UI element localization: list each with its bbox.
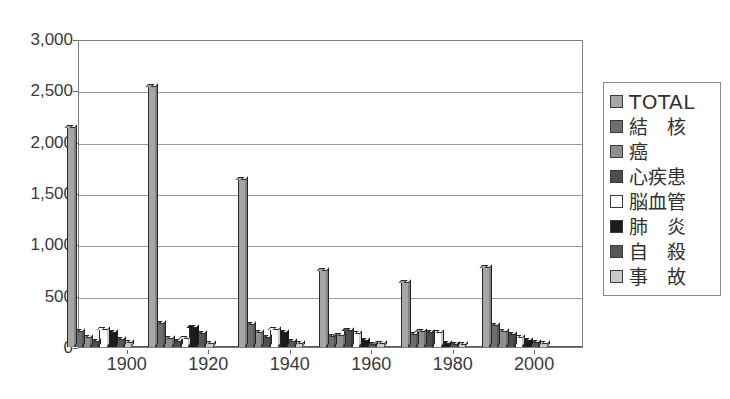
chart-figure: 3,0002,5002,0001,5001,0005000 1900192019… [0,0,730,399]
bar [319,270,327,347]
legend-swatch-icon [610,245,623,258]
bar-side-face [286,330,289,347]
legend-item-label: 結 核 [629,116,686,138]
bar-side-face [343,332,346,346]
bar-side-face [326,268,329,347]
x-axis-tick-label: 1920 [173,354,243,374]
legend-item[interactable]: 結 核 [610,114,716,139]
bar-side-face [155,84,158,347]
legend-item-label: TOTAL [629,91,695,113]
y-axis-tick-label: 0 [3,339,73,356]
y-axis-tick-label: 1,500 [3,185,73,202]
top-caption-cropped [60,0,620,7]
y-axis: 3,0002,5002,0001,5001,0005000 [0,40,73,348]
bar [368,344,376,347]
bar-side-face [408,280,411,347]
bar-side-face [196,324,199,346]
bar-top-face [341,328,350,331]
chart-legend: TOTAL結 核癌心疾患脳血管肺 炎自 殺事 故 [603,82,721,296]
bar-side-face [115,330,118,347]
bar [401,282,409,347]
bar-top-face [398,280,407,283]
legend-swatch-icon [610,145,623,158]
x-axis-tick-label: 1900 [92,354,162,374]
bar-side-face [489,264,492,346]
legend-swatch-icon [610,270,623,283]
bar-side-face [278,327,281,347]
plot-area [78,40,583,348]
bar [482,267,490,347]
bar-side-face [441,329,444,346]
bar-side-face [351,327,354,346]
bar-top-face [268,327,277,330]
bar-side-face [107,326,110,346]
bar [67,127,75,347]
x-axis-tick-label: 1980 [418,354,488,374]
bar-side-face [163,321,166,347]
legend-item-label: 自 殺 [629,241,686,263]
bar [148,86,156,347]
y-axis-tick-mark [73,348,78,349]
legend-item[interactable]: 癌 [610,139,716,164]
x-axis-tick-label: 1960 [336,354,406,374]
y-axis-tick-label: 1,000 [3,236,73,253]
y-axis-tick-label: 3,000 [3,31,73,48]
bar-side-face [497,322,500,346]
bar-side-face [506,329,509,347]
bar [450,344,458,347]
bar-top-face [187,325,196,328]
legend-swatch-icon [610,170,623,183]
legend-swatch-icon [610,195,623,208]
bar [238,179,246,347]
y-axis-tick-label: 500 [3,288,73,305]
bar-side-face [514,331,517,346]
x-axis-tick-label: 2000 [499,354,569,374]
legend-swatch-icon [610,120,623,133]
legend-swatch-icon [610,220,623,233]
bar-side-face [74,125,77,347]
legend-item-label: 事 故 [629,266,686,288]
bar-top-face [235,177,244,180]
legend-item-label: 肺 炎 [629,216,686,238]
legend-item-label: 心疾患 [629,166,686,188]
y-axis-tick-label: 2,000 [3,134,73,151]
bar-top-face [479,265,488,268]
x-axis: 190019201940196019802000 [78,350,583,380]
bar-side-face [253,322,256,347]
legend-item[interactable]: 事 故 [610,264,716,289]
legend-swatch-icon [610,95,623,108]
legend-item[interactable]: 心疾患 [610,164,716,189]
legend-item[interactable]: 肺 炎 [610,214,716,239]
bar-side-face [82,328,85,346]
bar-side-face [245,176,248,346]
bar-side-face [261,329,264,346]
legend-item-label: 癌 [629,141,648,163]
legend-item[interactable]: 脳血管 [610,189,716,214]
bars-layer [79,41,582,347]
bar-top-face [64,125,73,128]
bar-top-face [146,84,155,87]
bar-side-face [432,329,435,346]
y-axis-tick-label: 2,500 [3,82,73,99]
bar-top-face [317,268,326,271]
bar-top-face [97,327,106,330]
legend-item[interactable]: TOTAL [610,89,716,114]
bar [458,344,466,347]
legend-item-label: 脳血管 [629,191,686,213]
bar [295,343,303,347]
legend-item[interactable]: 自 殺 [610,239,716,264]
bottom-caption-cropped [14,385,344,397]
x-axis-tick-label: 1940 [255,354,325,374]
